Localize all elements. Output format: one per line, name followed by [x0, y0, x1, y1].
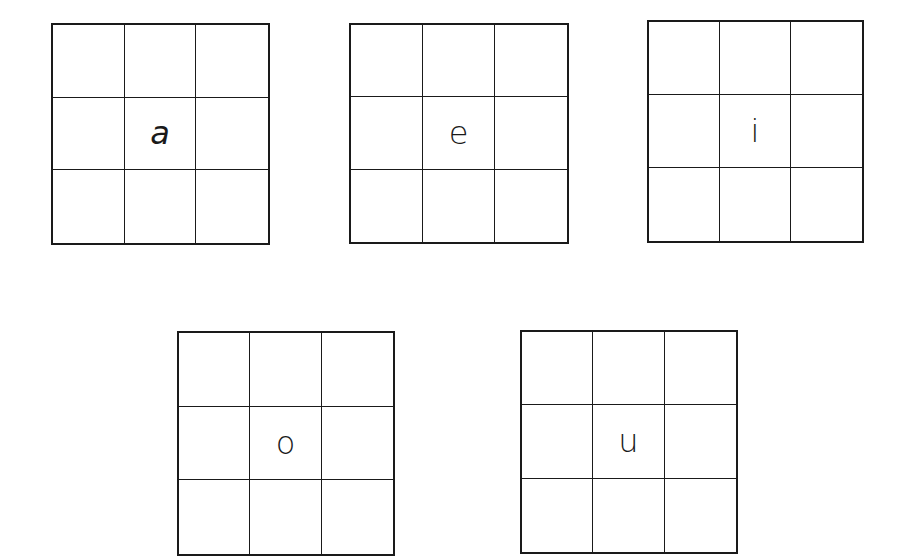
grid-cell[interactable]: [791, 22, 862, 95]
center-letter: a: [150, 117, 170, 149]
grid-cell[interactable]: [196, 25, 268, 98]
grid-cell[interactable]: [665, 479, 736, 552]
grid-cell[interactable]: [351, 97, 423, 169]
center-letter: o: [276, 427, 296, 459]
grid-cell[interactable]: [53, 98, 125, 171]
grid-cell[interactable]: [351, 25, 423, 97]
grid-center-cell: o: [250, 407, 321, 481]
grid-center-cell: e: [423, 97, 495, 169]
grid-cell[interactable]: [53, 170, 125, 243]
grid-cell[interactable]: [649, 168, 720, 241]
grid-cell[interactable]: [53, 25, 125, 98]
grid-cell[interactable]: [322, 333, 393, 407]
grid-cell[interactable]: [522, 332, 593, 405]
grid-cell[interactable]: [593, 479, 664, 552]
grid-cell[interactable]: [196, 170, 268, 243]
center-letter: e: [449, 117, 469, 149]
grid-cell[interactable]: [322, 407, 393, 481]
grid-cell[interactable]: [593, 332, 664, 405]
grid-center-cell: a: [125, 98, 197, 171]
grid-cell[interactable]: [649, 22, 720, 95]
grid-cell[interactable]: [649, 95, 720, 168]
grid-cell[interactable]: [125, 170, 197, 243]
grid-cell[interactable]: [250, 480, 321, 554]
grid-cell[interactable]: [791, 95, 862, 168]
grid-cell[interactable]: [791, 168, 862, 241]
grid-cell[interactable]: [179, 407, 250, 481]
grid-cell[interactable]: [495, 97, 567, 169]
grid-cell[interactable]: [179, 333, 250, 407]
grid-cell[interactable]: [423, 170, 495, 242]
letter-grid-a: a: [51, 23, 270, 245]
grid-cell[interactable]: [423, 25, 495, 97]
grid-cell[interactable]: [250, 333, 321, 407]
center-letter: u: [618, 425, 638, 457]
center-letter: i: [751, 115, 760, 147]
grid-center-cell: u: [593, 405, 664, 478]
grid-cell[interactable]: [522, 479, 593, 552]
grid-cell[interactable]: [720, 168, 791, 241]
grid-cell[interactable]: [495, 170, 567, 242]
letter-grid-i: i: [647, 20, 864, 243]
grid-center-cell: i: [720, 95, 791, 168]
grid-cell[interactable]: [351, 170, 423, 242]
letter-grid-e: e: [349, 23, 569, 244]
grid-cell[interactable]: [495, 25, 567, 97]
grid-cell[interactable]: [720, 22, 791, 95]
grid-cell[interactable]: [125, 25, 197, 98]
grid-cell[interactable]: [196, 98, 268, 171]
grid-cell[interactable]: [522, 405, 593, 478]
grid-cell[interactable]: [322, 480, 393, 554]
letter-grid-o: o: [177, 331, 395, 556]
grid-cell[interactable]: [665, 405, 736, 478]
grid-cell[interactable]: [665, 332, 736, 405]
grid-cell[interactable]: [179, 480, 250, 554]
letter-grid-u: u: [520, 330, 738, 554]
